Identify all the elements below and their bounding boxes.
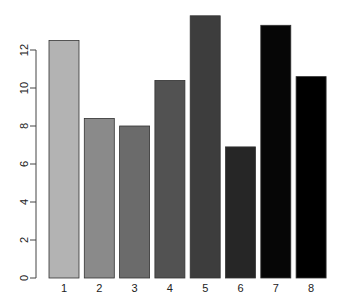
bar-3	[120, 126, 150, 278]
y-tick-label: 2	[18, 237, 30, 243]
bar-7	[261, 25, 291, 278]
bars	[49, 16, 326, 278]
x-tick-label: 6	[237, 282, 243, 294]
x-tick-label: 2	[96, 282, 102, 294]
x-tick-label: 4	[167, 282, 173, 294]
y-tick-label: 4	[18, 199, 30, 205]
bar-4	[155, 80, 185, 278]
y-tick-label: 6	[18, 161, 30, 167]
y-tick-label: 8	[18, 123, 30, 129]
bar-6	[226, 147, 256, 278]
x-tick-label: 3	[132, 282, 138, 294]
y-tick-label: 12	[18, 44, 30, 56]
bar-chart: 024681012 12345678	[0, 0, 341, 306]
x-tick-label: 1	[61, 282, 67, 294]
y-tick-label: 10	[18, 82, 30, 94]
bar-1	[49, 41, 79, 279]
x-tick-label: 7	[273, 282, 279, 294]
x-tick-label: 5	[202, 282, 208, 294]
x-tick-label: 8	[308, 282, 314, 294]
bar-5	[190, 16, 220, 278]
x-axis-labels: 12345678	[61, 282, 314, 294]
bar-8	[296, 77, 326, 278]
y-tick-label: 0	[18, 275, 30, 281]
y-axis: 024681012	[18, 44, 36, 281]
bar-2	[84, 118, 114, 278]
